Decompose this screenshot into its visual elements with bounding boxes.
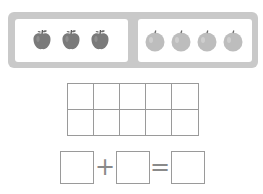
ten-frame-cell[interactable] (94, 84, 120, 110)
addend-1-box[interactable] (60, 151, 94, 184)
ten-frame-cell[interactable] (146, 110, 172, 136)
ten-frame-cell[interactable] (68, 110, 94, 136)
orange-icon (197, 29, 217, 53)
orange-icon (223, 29, 243, 53)
ten-frame-cell[interactable] (172, 110, 198, 136)
plus-sign: + (95, 152, 115, 182)
ten-frame-cell[interactable] (146, 84, 172, 110)
ten-frame-cell[interactable] (120, 84, 146, 110)
apple-icon (32, 28, 52, 52)
orange-icon (145, 29, 165, 53)
ten-frame-cell[interactable] (172, 84, 198, 110)
sum-box[interactable] (171, 151, 205, 184)
ten-frame-cell[interactable] (120, 110, 146, 136)
orange-icon (171, 29, 191, 53)
addend-2-box[interactable] (116, 151, 150, 184)
ten-frame-grid (67, 83, 199, 136)
apple-icon (90, 28, 110, 52)
ten-frame-cell[interactable] (68, 84, 94, 110)
equals-sign: = (150, 152, 170, 182)
ten-frame-cell[interactable] (94, 110, 120, 136)
apple-icon (61, 28, 81, 52)
